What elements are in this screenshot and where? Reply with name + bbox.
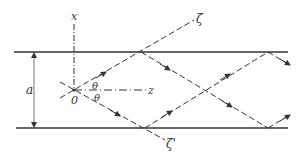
separation-label: a <box>26 83 33 97</box>
theta-lower-label: θ <box>94 92 100 103</box>
origin-label: 0 <box>71 94 78 107</box>
waveguide-diagram: x z ζ ζ' 0 θ θ a <box>0 0 302 154</box>
x-axis-label: x <box>71 10 78 23</box>
zeta-prime-label: ζ' <box>166 137 176 151</box>
origin-point <box>72 88 75 91</box>
zeta-axis <box>60 20 194 98</box>
theta-upper-label: θ <box>92 80 98 91</box>
zeta-label: ζ <box>196 12 204 26</box>
z-axis-label: z <box>147 84 154 97</box>
